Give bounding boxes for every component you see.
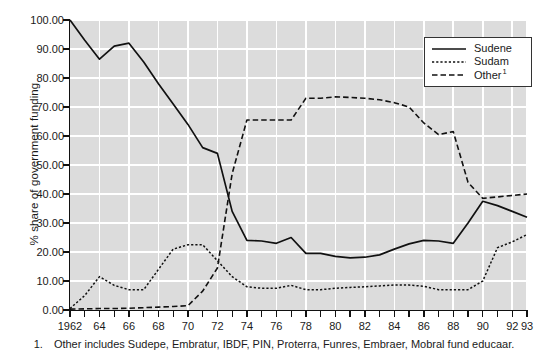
x-axis-tick-mark <box>526 311 527 317</box>
legend[interactable]: Sudene Sudam Other1 <box>424 37 532 87</box>
y-axis-tick-label: 20.00 <box>18 247 64 258</box>
x-axis-tick-mark <box>173 311 174 317</box>
y-axis-tick-mark <box>63 193 70 194</box>
footnote-marker: 1. <box>34 338 54 350</box>
legend-footnote-marker: 1 <box>502 67 507 76</box>
y-axis-tick-mark <box>63 48 70 49</box>
y-axis-tick-label: 90.00 <box>18 44 64 55</box>
x-axis-tick-mark <box>143 311 144 317</box>
x-axis-tick-mark <box>335 311 336 317</box>
x-axis-tick-mark <box>99 311 100 317</box>
x-axis-tick-mark <box>305 311 306 317</box>
legend-swatch-dotted-icon <box>431 57 467 67</box>
x-axis-tick-mark <box>232 311 233 317</box>
y-axis-tick-label: 70.00 <box>18 102 64 113</box>
y-axis-tick-mark <box>63 77 70 78</box>
y-axis-tick-label: 0.00 <box>18 305 64 316</box>
y-axis-tick-mark <box>63 222 70 223</box>
x-axis-tick-mark <box>364 311 365 317</box>
x-axis-tick-mark <box>187 311 188 317</box>
y-axis-tick-mark <box>63 280 70 281</box>
x-axis-tick-mark <box>69 311 70 317</box>
y-axis-tick-label: 80.00 <box>18 73 64 84</box>
y-axis-tick-mark <box>63 106 70 107</box>
y-axis-tick-label: 30.00 <box>18 218 64 229</box>
x-axis-tick-mark <box>423 311 424 317</box>
line-chart: % share of government funding 100.0090.0… <box>0 0 548 357</box>
x-axis-tick-mark <box>276 311 277 317</box>
y-axis-tick-label: 50.00 <box>18 160 64 171</box>
x-axis-tick-mark <box>408 311 409 317</box>
x-axis-tick-mark <box>379 311 380 317</box>
legend-item-sudene[interactable]: Sudene <box>431 42 525 55</box>
x-axis-tick-mark <box>291 311 292 317</box>
x-axis-tick-mark <box>467 311 468 317</box>
x-axis-tick-mark <box>453 311 454 317</box>
x-axis-tick-mark <box>482 311 483 317</box>
footnote-text: Other includes Sudepe, Embratur, IBDF, P… <box>54 338 514 350</box>
y-axis-tick-mark <box>63 309 70 310</box>
x-axis-tick-mark <box>512 311 513 317</box>
legend-label-other: Other1 <box>474 68 507 81</box>
x-axis-tick-mark <box>217 311 218 317</box>
x-axis-tick-mark <box>349 311 350 317</box>
x-axis-tick-label: 93 <box>510 320 544 332</box>
x-axis-tick-mark <box>246 311 247 317</box>
x-axis-line <box>69 310 528 311</box>
y-axis-tick-label: 40.00 <box>18 189 64 200</box>
legend-item-other[interactable]: Other1 <box>431 68 525 81</box>
y-axis-tick-mark <box>63 164 70 165</box>
x-axis-tick-mark <box>320 311 321 317</box>
x-axis-tick-mark <box>261 311 262 317</box>
legend-label-other-text: Other <box>474 69 502 81</box>
x-axis-tick-mark <box>202 311 203 317</box>
x-axis-tick-mark <box>114 311 115 317</box>
y-axis-tick-mark <box>63 19 70 20</box>
x-axis-tick-mark <box>128 311 129 317</box>
y-axis-tick-label: 100.00 <box>18 15 64 26</box>
y-axis-tick-label: 60.00 <box>18 131 64 142</box>
series-line-other <box>70 97 527 309</box>
y-axis-tick-mark <box>63 135 70 136</box>
y-axis-tick-label: 10.00 <box>18 276 64 287</box>
footnote: 1.Other includes Sudepe, Embratur, IBDF,… <box>0 338 548 350</box>
x-axis-tick-mark <box>438 311 439 317</box>
x-axis-tick-mark <box>84 311 85 317</box>
legend-swatch-solid-icon <box>431 44 467 54</box>
x-axis-tick-mark <box>394 311 395 317</box>
y-axis-tick-labels: 100.0090.0080.0070.0060.0050.0040.0030.0… <box>14 0 64 357</box>
x-axis-tick-mark <box>497 311 498 317</box>
legend-item-sudam[interactable]: Sudam <box>431 55 525 68</box>
y-axis-tick-mark <box>63 251 70 252</box>
x-axis-tick-mark <box>158 311 159 317</box>
legend-swatch-dashed-icon <box>431 70 467 80</box>
legend-label-sudam: Sudam <box>474 56 509 67</box>
legend-label-sudene: Sudene <box>474 43 512 54</box>
